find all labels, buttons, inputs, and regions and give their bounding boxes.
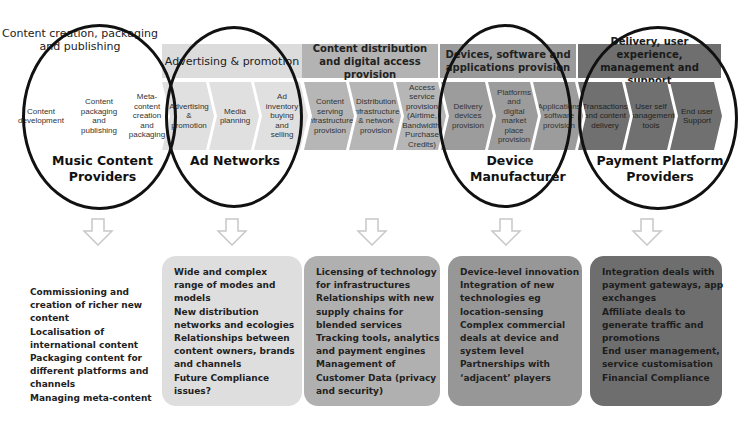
chevron-label: Distribution infrastructure & network pr… xyxy=(353,97,400,135)
box-line: different platforms and xyxy=(30,365,142,378)
down-arrow-icon xyxy=(216,218,248,246)
box-line: channels xyxy=(30,378,142,391)
chevron-step: Distribution infrastructure & network pr… xyxy=(349,82,401,150)
highlight-ellipse-ad-networks xyxy=(165,26,303,208)
box-line: content xyxy=(30,312,142,325)
box-line: ‘adjacent’ players xyxy=(460,372,574,385)
detail-box-distribution: Licensing of technology for infrastructu… xyxy=(304,256,440,406)
box-line: Future Compliance xyxy=(174,372,294,385)
highlight-ellipse-music xyxy=(22,24,177,210)
chevron-label: Access service provision (Airtime, Bandw… xyxy=(402,83,442,150)
box-line: End user management, xyxy=(602,345,714,358)
box-line: Wide and complex xyxy=(174,266,294,279)
detail-box-content-creation: Commissioning and creation of richer new… xyxy=(0,256,150,406)
box-line: system level xyxy=(460,345,574,358)
chevron-label: Content serving infrastructure provision xyxy=(307,97,354,135)
box-line: service customisation xyxy=(602,358,714,371)
box-line: Financial Compliance xyxy=(602,372,714,385)
box-line: Licensing of technology xyxy=(316,266,432,279)
box-line: blended services xyxy=(316,319,432,332)
box-line: Managing meta-content xyxy=(30,392,142,405)
box-line: Device-level innovation xyxy=(460,266,574,279)
highlight-ellipse-payment xyxy=(578,26,738,210)
box-line: Commissioning and xyxy=(30,286,142,299)
box-line: exchanges xyxy=(602,292,714,305)
highlight-ellipse-device xyxy=(438,24,572,208)
box-line: Integration deals with xyxy=(602,266,714,279)
box-line: and payment engines xyxy=(316,345,432,358)
box-line: technologies eg xyxy=(460,292,574,305)
box-line: content owners, brands xyxy=(174,345,294,358)
box-line: range of modes and xyxy=(174,279,294,292)
box-line: Affiliate deals to xyxy=(602,306,714,319)
box-line: international content xyxy=(30,339,142,352)
box-line: supply chains for xyxy=(316,306,432,319)
down-arrow-icon xyxy=(490,218,522,246)
box-line: Tracking tools, analytics xyxy=(316,332,432,345)
box-line: Customer Data (privacy xyxy=(316,372,432,385)
box-line: networks and ecologies xyxy=(174,319,294,332)
box-line: generate traffic and xyxy=(602,319,714,332)
box-line: and security) xyxy=(316,385,432,398)
band-label: Content distribution and digital access … xyxy=(302,42,438,81)
box-line: Integration of new xyxy=(460,279,574,292)
box-line: Partnerships with xyxy=(460,358,574,371)
box-line: location-sensing xyxy=(460,306,574,319)
box-line: New distribution xyxy=(174,306,294,319)
box-line: Relationships between xyxy=(174,332,294,345)
box-line: Relationships with new xyxy=(316,292,432,305)
detail-box-advertising: Wide and complex range of modes and mode… xyxy=(162,256,302,406)
box-line: Localisation of xyxy=(30,326,142,339)
box-line: issues? xyxy=(174,385,294,398)
box-line: for infrastructures xyxy=(316,279,432,292)
box-line: creation of richer new xyxy=(30,299,142,312)
detail-box-delivery: Integration deals with payment gateways,… xyxy=(590,256,722,406)
down-arrow-icon xyxy=(356,218,388,246)
box-line: Complex commercial xyxy=(460,319,574,332)
down-arrow-icon xyxy=(631,218,663,246)
detail-box-devices: Device-level innovation Integration of n… xyxy=(448,256,582,406)
box-line: models xyxy=(174,292,294,305)
box-line: payment gateways, app xyxy=(602,279,714,292)
chevron-step: Content serving infrastructure provision xyxy=(304,82,354,150)
band-content-distribution: Content distribution and digital access … xyxy=(302,44,438,78)
box-line: promotions xyxy=(602,332,714,345)
box-line: Management of xyxy=(316,358,432,371)
box-line: and channels xyxy=(174,358,294,371)
down-arrow-icon xyxy=(82,218,114,246)
box-line: Packaging content for xyxy=(30,352,142,365)
box-line: deals at device and xyxy=(460,332,574,345)
